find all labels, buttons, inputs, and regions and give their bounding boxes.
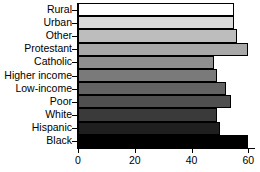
category-axis-labels: RuralUrbanOtherProtestantCatholicHigher … bbox=[0, 3, 72, 148]
bar-catholic bbox=[78, 56, 214, 69]
bar-low-income bbox=[78, 82, 226, 95]
x-tick bbox=[248, 148, 249, 153]
category-label-hispanic: Hispanic bbox=[0, 122, 72, 133]
bar-black bbox=[78, 135, 248, 148]
category-label-black: Black bbox=[0, 135, 72, 146]
category-label-white: White bbox=[0, 109, 72, 120]
y-tick bbox=[72, 141, 77, 142]
category-label-rural: Rural bbox=[0, 4, 72, 15]
category-label-poor: Poor bbox=[0, 96, 72, 107]
bar-poor bbox=[78, 95, 231, 108]
bar-row bbox=[78, 3, 254, 16]
bar-hispanic bbox=[78, 122, 220, 135]
bar-other bbox=[78, 29, 237, 42]
plot-area bbox=[78, 3, 254, 148]
bar-row bbox=[78, 135, 254, 148]
y-tick bbox=[72, 62, 77, 63]
y-tick bbox=[72, 10, 77, 11]
y-tick bbox=[72, 128, 77, 129]
y-tick bbox=[72, 36, 77, 37]
x-tick-label: 40 bbox=[177, 155, 207, 166]
bar-row bbox=[78, 16, 254, 29]
bar-row bbox=[78, 122, 254, 135]
y-tick bbox=[72, 102, 77, 103]
bar-row bbox=[78, 29, 254, 42]
bar-row bbox=[78, 95, 254, 108]
x-axis-line bbox=[77, 148, 255, 149]
bar-row bbox=[78, 69, 254, 82]
category-label-low-income: Low-income bbox=[0, 83, 72, 94]
category-label-urban: Urban bbox=[0, 17, 72, 28]
x-tick-label: 0 bbox=[63, 155, 93, 166]
x-tick-label: 20 bbox=[120, 155, 150, 166]
bar-white bbox=[78, 108, 217, 121]
x-tick bbox=[78, 148, 79, 153]
x-tick bbox=[135, 148, 136, 153]
category-label-other: Other bbox=[0, 30, 72, 41]
bar-row bbox=[78, 82, 254, 95]
y-tick bbox=[72, 23, 77, 24]
x-tick bbox=[192, 148, 193, 153]
bar-row bbox=[78, 43, 254, 56]
bar-rural bbox=[78, 3, 234, 16]
bar-protestant bbox=[78, 43, 248, 56]
y-tick bbox=[72, 89, 77, 90]
y-tick bbox=[72, 115, 77, 116]
bar-row bbox=[78, 108, 254, 121]
category-label-higher-income: Higher income bbox=[0, 70, 72, 81]
y-tick bbox=[72, 76, 77, 77]
bar-chart: RuralUrbanOtherProtestantCatholicHigher … bbox=[0, 0, 260, 172]
category-label-catholic: Catholic bbox=[0, 56, 72, 67]
x-tick-label: 60 bbox=[233, 155, 260, 166]
bar-row bbox=[78, 56, 254, 69]
bar-higher-income bbox=[78, 69, 217, 82]
category-label-protestant: Protestant bbox=[0, 43, 72, 54]
y-tick bbox=[72, 49, 77, 50]
bar-urban bbox=[78, 16, 234, 29]
